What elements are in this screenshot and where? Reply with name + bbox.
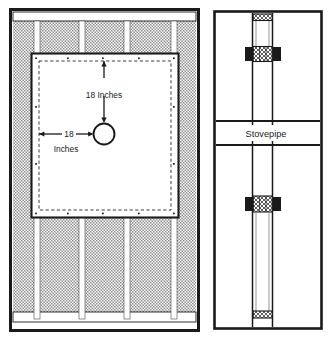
front-elevation-panel: 18 Inches 18 Inches: [11, 10, 199, 331]
horizontal-dimension-unit: Inches: [54, 144, 79, 154]
fastener-dot: [138, 57, 140, 59]
pipe-cap-top: [253, 14, 272, 21]
section-view-panel: Stovepipe: [215, 12, 322, 329]
thimble-collar-lower: [245, 196, 281, 212]
pipe-cap-bottom-hatch: [253, 311, 272, 318]
fastener-dot: [173, 106, 175, 108]
fastener-dot: [67, 213, 69, 215]
fastener-dot: [35, 213, 37, 215]
fastener-dot: [173, 213, 175, 215]
fastener-dot: [173, 57, 175, 59]
fastener-dot: [102, 213, 104, 215]
horizontal-dimension-value: 18: [64, 129, 74, 139]
pipe-cap-bottom: [253, 311, 272, 318]
technical-diagram-figure: 18 Inches 18 Inches: [0, 0, 329, 340]
fastener-dot: [35, 57, 37, 59]
top-plate: [13, 12, 196, 21]
pipe-cap-top-hatch: [253, 14, 272, 21]
thimble-collar-upper: [245, 47, 281, 62]
bottom-plate: [13, 312, 196, 322]
fastener-dot: [102, 57, 104, 59]
fastener-dot: [173, 163, 175, 165]
vertical-dimension-label: 18 Inches: [86, 90, 122, 100]
fastener-dot: [138, 213, 140, 215]
stovepipe-clearance-diagram: 18 Inches 18 Inches: [0, 0, 329, 340]
fastener-dot: [35, 106, 37, 108]
fastener-dot: [67, 57, 69, 59]
collar-upper-hatch: [253, 47, 272, 62]
stovepipe-hole: [94, 124, 115, 145]
fastener-dot: [35, 163, 37, 165]
stovepipe-label: Stovepipe: [246, 129, 287, 139]
collar-lower-hatch: [253, 196, 272, 212]
